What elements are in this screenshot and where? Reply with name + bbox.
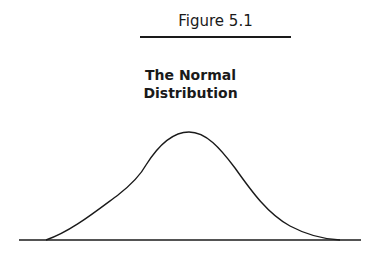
bell-curve bbox=[46, 132, 340, 240]
normal-curve-plot bbox=[0, 0, 379, 256]
